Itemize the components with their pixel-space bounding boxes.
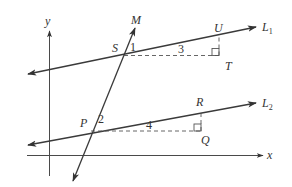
line-m [73,28,135,181]
point-r-label: R [195,95,204,109]
right-angle-marker-t [212,49,219,56]
y-axis-label: y [44,14,51,28]
line-m-label: M [130,13,142,27]
point-q-label: Q [201,133,210,147]
segment-pq-length: 4 [146,118,152,132]
point-t-label: T [225,59,233,73]
line-l1-label: L1 [261,20,273,36]
angle-1-label: 1 [130,40,136,54]
segment-st-length: 3 [178,42,184,56]
x-axis-label: x [266,148,273,162]
line-l2 [28,103,256,145]
parallel-lines-diagram: y x L1 L2 M S T U 1 3 P Q R 2 4 [0,0,292,187]
line-l2-label: L2 [261,96,273,112]
angle-2-label: 2 [98,112,104,126]
point-u-label: U [214,21,224,35]
point-p-label: P [79,116,88,130]
right-angle-marker-q [194,124,201,131]
point-s-label: S [112,41,118,55]
